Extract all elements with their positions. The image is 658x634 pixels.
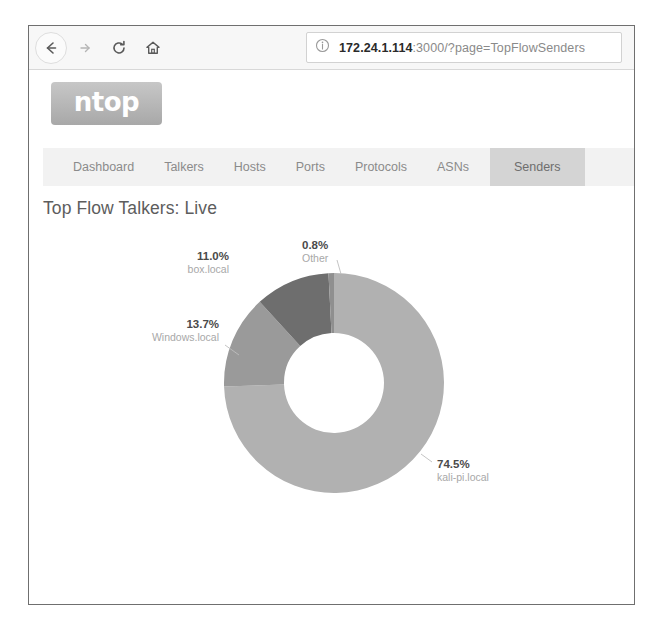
- ntop-logo[interactable]: ntop: [51, 82, 162, 125]
- slice-label-kali-pi-local: 74.5% kali-pi.local: [437, 458, 547, 483]
- navigation-buttons: [29, 32, 169, 64]
- slice-pct-windows-local: 13.7%: [114, 318, 219, 331]
- back-button[interactable]: [35, 32, 67, 64]
- url-host: 172.24.1.114: [339, 41, 413, 55]
- tab-senders[interactable]: Senders: [490, 148, 585, 186]
- screenshot-root: 172.24.1.114:3000/?page=TopFlowSenders n…: [0, 0, 658, 634]
- home-icon: [144, 39, 162, 57]
- main-navbar: Dashboard Talkers Hosts Ports Protocols …: [43, 148, 634, 186]
- slice-label-box-local: 11.0% box.local: [139, 250, 229, 275]
- tab-asns-label: ASNs: [437, 160, 469, 174]
- tab-asns[interactable]: ASNs: [422, 148, 484, 186]
- forward-arrow-icon: [76, 39, 94, 57]
- url-path: :3000/?page=TopFlowSenders: [413, 41, 586, 55]
- info-circle-icon[interactable]: [315, 38, 330, 57]
- tab-dashboard[interactable]: Dashboard: [43, 148, 149, 186]
- donut-chart: 11.0% box.local 0.8% Other 13.7% Windows…: [29, 230, 634, 600]
- url-bar[interactable]: 172.24.1.114:3000/?page=TopFlowSenders: [306, 32, 622, 63]
- url-text: 172.24.1.114:3000/?page=TopFlowSenders: [339, 41, 585, 55]
- tab-dashboard-label: Dashboard: [73, 160, 134, 174]
- tab-talkers[interactable]: Talkers: [149, 148, 219, 186]
- back-arrow-icon: [42, 39, 60, 57]
- tab-senders-label: Senders: [514, 160, 561, 174]
- slice-pct-kali-pi-local: 74.5%: [437, 458, 547, 471]
- slice-name-kali-pi-local: kali-pi.local: [437, 471, 547, 483]
- tab-protocols[interactable]: Protocols: [340, 148, 422, 186]
- slice-label-windows-local: 13.7% Windows.local: [114, 318, 219, 343]
- reload-icon: [110, 39, 128, 57]
- tab-talkers-label: Talkers: [164, 160, 204, 174]
- page-title: Top Flow Talkers: Live: [43, 198, 217, 219]
- browser-window: 172.24.1.114:3000/?page=TopFlowSenders n…: [28, 25, 635, 605]
- slice-pct-box-local: 11.0%: [139, 250, 229, 263]
- tab-hosts[interactable]: Hosts: [219, 148, 281, 186]
- donut-chart-svg: [29, 230, 634, 600]
- slice-pct-other: 0.8%: [302, 239, 382, 252]
- leader-line-kali: [421, 454, 432, 462]
- tab-ports-label: Ports: [296, 160, 325, 174]
- forward-button[interactable]: [69, 32, 101, 64]
- home-button[interactable]: [137, 32, 169, 64]
- reload-button[interactable]: [103, 32, 135, 64]
- tab-ports[interactable]: Ports: [281, 148, 340, 186]
- donut-slices: [224, 273, 444, 493]
- tab-protocols-label: Protocols: [355, 160, 407, 174]
- browser-toolbar: 172.24.1.114:3000/?page=TopFlowSenders: [29, 26, 634, 70]
- tab-hosts-label: Hosts: [234, 160, 266, 174]
- page-content: ntop Dashboard Talkers Hosts Ports Proto…: [29, 70, 634, 604]
- slice-label-other: 0.8% Other: [302, 239, 382, 264]
- slice-name-other: Other: [302, 252, 382, 264]
- slice-name-box-local: box.local: [139, 263, 229, 275]
- ntop-logo-text: ntop: [74, 89, 139, 118]
- slice-name-windows-local: Windows.local: [114, 331, 219, 343]
